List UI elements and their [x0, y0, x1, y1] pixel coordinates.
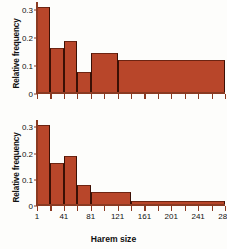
x-tick-mark [225, 94, 226, 99]
histogram-bar [37, 7, 50, 94]
x-tick-label: 1 [35, 212, 39, 221]
x-tick-mark [185, 94, 186, 99]
x-tick-mark [198, 94, 199, 99]
y-axis-title-bottom: Relative frequency [12, 124, 21, 210]
x-tick-label: 281 [218, 212, 227, 221]
x-tick-mark [64, 94, 65, 99]
plot-area-bottom: 00.10.20.314181121161201241281 [37, 122, 225, 206]
x-tick-mark [212, 206, 213, 211]
histogram-bar [77, 72, 90, 95]
y-tick-label: 0 [29, 90, 33, 99]
x-tick-mark [104, 94, 105, 99]
plot-canvas-bottom: 00.10.20.314181121161201241281 [37, 122, 225, 206]
x-tick-mark [37, 206, 38, 211]
histogram-bar [50, 48, 63, 94]
plot-area-top: 00.10.20.3 [37, 4, 225, 94]
x-tick-mark [50, 206, 51, 211]
histogram-bar [77, 185, 90, 206]
x-tick-mark [185, 206, 186, 211]
y-tick-label: 0.3 [22, 123, 33, 132]
x-tick-mark [77, 94, 78, 99]
x-tick-mark [198, 206, 199, 211]
x-tick-mark [91, 94, 92, 99]
x-tick-mark [144, 94, 145, 99]
x-tick-mark [91, 206, 92, 211]
x-axis-line-bottom [37, 204, 225, 206]
x-tick-mark [131, 206, 132, 211]
x-tick-mark [37, 94, 38, 99]
x-tick-mark [212, 94, 213, 99]
harem-size-histogram-figure: Relative frequency 00.10.20.3 Relative f… [0, 0, 227, 249]
histogram-bar [50, 163, 63, 206]
histogram-bar [64, 156, 77, 206]
x-tick-mark [131, 94, 132, 99]
y-tick-label: 0.2 [22, 149, 33, 158]
x-tick-label: 241 [191, 212, 204, 221]
y-tick-label: 0.1 [22, 175, 33, 184]
x-tick-label: 41 [59, 212, 68, 221]
y-tick-label: 0.3 [22, 5, 33, 14]
x-tick-mark [158, 206, 159, 211]
x-tick-mark [50, 94, 51, 99]
y-tick-label: 0.1 [22, 61, 33, 70]
y-axis-line-top [36, 2, 38, 94]
x-tick-mark [144, 206, 145, 211]
x-tick-mark [64, 206, 65, 211]
x-tick-mark [225, 206, 226, 211]
y-tick-label: 0.2 [22, 33, 33, 42]
x-tick-mark [158, 94, 159, 99]
histogram-bar [91, 53, 118, 94]
histogram-bar [64, 41, 77, 94]
x-tick-mark [118, 94, 119, 99]
x-tick-mark [77, 206, 78, 211]
x-tick-label: 161 [138, 212, 151, 221]
x-axis-title: Harem size [0, 234, 227, 244]
x-tick-mark [171, 206, 172, 211]
x-axis-line-top [37, 92, 225, 94]
y-tick-label: 0 [29, 202, 33, 211]
chart-panel-bottom: Relative frequency 00.10.20.314181121161… [0, 118, 227, 221]
chart-panel-top: Relative frequency 00.10.20.3 [0, 0, 227, 112]
x-tick-mark [104, 206, 105, 211]
histogram-bar [118, 60, 225, 94]
x-tick-mark [118, 206, 119, 211]
x-tick-mark [171, 94, 172, 99]
histogram-bar [37, 125, 50, 206]
plot-canvas-top: 00.10.20.3 [37, 4, 225, 94]
y-axis-line-bottom [36, 120, 38, 206]
x-tick-label: 81 [86, 212, 95, 221]
x-tick-label: 121 [111, 212, 124, 221]
y-axis-title-top: Relative frequency [12, 11, 21, 97]
x-tick-label: 201 [165, 212, 178, 221]
